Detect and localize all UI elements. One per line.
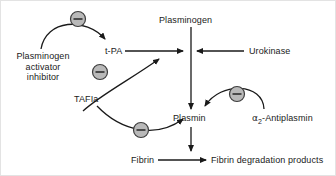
minus-marker-pai-to-urokinase	[93, 65, 108, 80]
inhibition-markers	[71, 12, 245, 138]
pai-line-2: activator	[26, 62, 61, 72]
node-label-urokinase: Urokinase	[249, 46, 290, 57]
antiplasmin-suffix: -Antiplasmin	[262, 113, 313, 123]
fibrinolysis-pathway-figure: Plasminogen t-PA Urokinase Plasminogen a…	[0, 0, 336, 176]
minus-marker-pai-to-tpa	[71, 12, 86, 27]
pathway-graph	[1, 1, 336, 176]
node-label-tafia: TAFIa	[74, 94, 98, 105]
pai-line-1: Plasminogen	[16, 51, 69, 61]
minus-marker-antiplasmin-to-plasmin	[230, 87, 245, 102]
node-label-plasminogen: Plasminogen	[159, 15, 212, 26]
node-label-alpha2-antiplasmin: α2-Antiplasmin	[252, 113, 313, 127]
node-label-fibrin-degradation-products: Fibrin degradation products	[211, 155, 323, 166]
node-label-fibrin: Fibrin	[131, 155, 154, 166]
minus-marker-tafia-to-plasmin	[134, 123, 149, 138]
node-label-tpa: t-PA	[105, 46, 122, 57]
node-label-plasmin: Plasmin	[173, 113, 206, 124]
pai-line-3: inhibitor	[27, 72, 59, 82]
edge-pai-to-tpa	[41, 24, 105, 49]
node-label-plasminogen-activator-inhibitor: Plasminogen activator inhibitor	[5, 51, 81, 83]
